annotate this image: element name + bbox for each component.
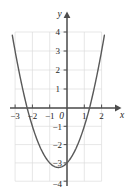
x-axis-label: x xyxy=(119,110,125,120)
y-axis-label: y xyxy=(56,9,62,19)
parabola-plot: −3 −2 −1 1 2 0 4 3 2 1 −1 −2 −3 −4 x y xyxy=(0,0,129,192)
origin-label: 0 xyxy=(59,111,64,121)
y-tick-label-pos2: 2 xyxy=(56,65,61,75)
y-tick-label-neg1: −1 xyxy=(52,122,62,132)
x-tick-label-neg2: −2 xyxy=(28,111,38,121)
y-axis-arrow xyxy=(64,12,71,19)
y-tick-label-pos1: 1 xyxy=(56,84,61,94)
graph-figure: −3 −2 −1 1 2 0 4 3 2 1 −1 −2 −3 −4 x y xyxy=(0,0,129,192)
x-tick-label-pos1: 1 xyxy=(82,111,87,121)
y-tick-label-neg3: −3 xyxy=(52,158,62,168)
y-tick-label-neg2: −2 xyxy=(52,140,62,150)
x-tick-label-neg3: −3 xyxy=(10,111,20,121)
y-tick-label-pos3: 3 xyxy=(56,46,61,56)
y-tick-label-neg4: −4 xyxy=(52,179,62,189)
x-tick-label-pos2: 2 xyxy=(99,111,104,121)
x-tick-label-neg1: −1 xyxy=(45,111,55,121)
y-tick-label-pos4: 4 xyxy=(56,27,61,37)
